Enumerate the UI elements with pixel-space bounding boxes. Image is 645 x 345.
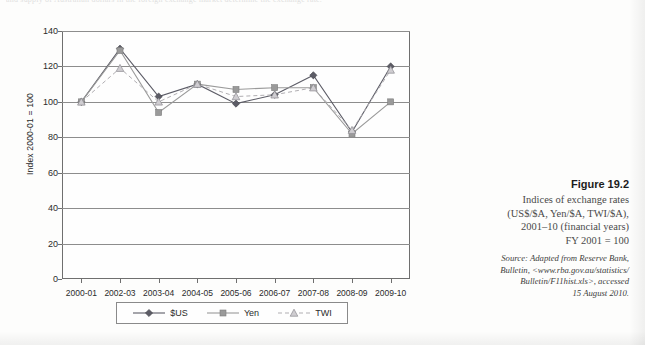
figure-number: Figure 19.2: [425, 178, 629, 190]
data-point-marker: [233, 86, 239, 92]
x-tick-mark: [197, 279, 198, 283]
y-tick-label: 100: [18, 97, 58, 107]
x-tick-mark: [391, 279, 392, 283]
y-tick-mark: [58, 279, 62, 280]
page-body-text-sliver: and supply of Australian dollars in the …: [0, 0, 645, 11]
legend-label: TWI: [315, 308, 332, 318]
data-point-marker: [310, 72, 317, 79]
source-line: Bulletin/F11hist.xls>, accessed: [425, 276, 629, 288]
source-line: Source: Adapted from Reserve Bank,: [425, 253, 629, 265]
data-point-marker: [232, 100, 239, 107]
figure-caption: Figure 19.2 Indices of exchange rates(US…: [425, 178, 629, 299]
x-tick-label: 2009-10: [360, 288, 422, 298]
x-tick-mark: [275, 279, 276, 283]
chart-legend: $USYenTWI: [116, 302, 348, 324]
y-tick-label: 140: [18, 26, 58, 36]
data-point-marker: [146, 309, 153, 316]
series-plot: [62, 31, 410, 279]
source-line: Bulletin, <www.rba.gov.au/statistics/: [425, 265, 629, 277]
y-tick-label: 40: [18, 203, 58, 213]
figure-caption-text: Indices of exchange rates(US$/$A, Yen/$A…: [425, 193, 629, 247]
legend-label: Yen: [244, 308, 259, 318]
x-tick-mark: [120, 279, 121, 283]
figure-chart: Index 2000-01 = 100 020406080100120140 2…: [0, 11, 430, 331]
data-point-marker: [388, 99, 394, 105]
page-body-text: and supply of Australian dollars in the …: [6, 0, 322, 4]
x-tick-mark: [159, 279, 160, 283]
page-edge-shadow-bottom: [0, 331, 645, 345]
data-point-marker: [156, 109, 162, 115]
legend-swatch-diamond-icon: [132, 307, 166, 319]
y-tick-label: 0: [18, 274, 58, 284]
y-tick-label: 60: [18, 168, 58, 178]
figure-source: Source: Adapted from Reserve Bank,Bullet…: [425, 253, 629, 299]
caption-line: FY 2001 = 100: [425, 234, 629, 248]
y-tick-label: 120: [18, 61, 58, 71]
legend-item-us[interactable]: $US: [132, 307, 188, 319]
plot-wrapper: 020406080100120140 2000-012002-032003-04…: [62, 31, 410, 279]
x-tick-mark: [352, 279, 353, 283]
x-tick-mark: [236, 279, 237, 283]
y-tick-label: 20: [18, 239, 58, 249]
data-point-marker: [220, 310, 226, 316]
legend-label: $US: [170, 308, 188, 318]
x-tick-mark: [313, 279, 314, 283]
caption-line: (US$/$A, Yen/$A, TWI/$A),: [425, 207, 629, 221]
data-point-marker: [232, 93, 240, 100]
y-tick-label: 80: [18, 132, 58, 142]
legend-swatch-square-icon: [206, 307, 240, 319]
page-edge-shadow-right: [629, 0, 645, 345]
legend-item-twi[interactable]: TWI: [277, 307, 332, 319]
legend-item-yen[interactable]: Yen: [206, 307, 259, 319]
caption-line: 2001–10 (financial years): [425, 220, 629, 234]
data-point-marker: [291, 309, 299, 316]
x-tick-mark: [81, 279, 82, 283]
data-point-marker: [272, 85, 278, 91]
data-point-marker: [116, 64, 124, 71]
source-line: 15 August 2010.: [425, 288, 629, 300]
data-point-marker: [117, 47, 123, 53]
legend-swatch-triangle-icon: [277, 307, 311, 319]
caption-line: Indices of exchange rates: [425, 193, 629, 207]
